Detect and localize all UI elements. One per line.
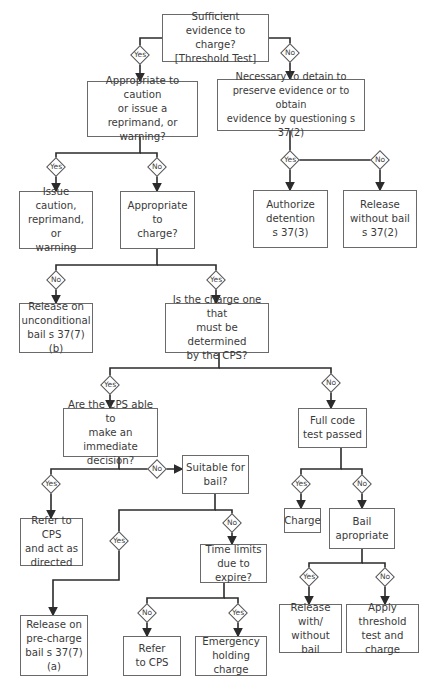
release-without-bail-box: Release without bail s 37(2) xyxy=(343,190,417,248)
yes-diamond-threshold: Yes xyxy=(129,44,151,66)
detain-question-box: Necessary to detain to preserve evidence… xyxy=(217,79,365,131)
authorize-detention-box: Authorize detention s 37(3) xyxy=(253,190,328,248)
time-limits-box: Time limits due to expire? xyxy=(200,544,267,583)
no-diamond-time-limits: No xyxy=(136,602,158,624)
apply-threshold-box: Apply threshold test and charge xyxy=(346,604,419,653)
caution-question-box: Appropriate to caution or issue a reprim… xyxy=(87,81,198,137)
charge-question-box: Appropriate to charge? xyxy=(120,191,195,249)
refer-to-cps-box: Refer to CPS xyxy=(123,636,181,676)
yes-diamond-suitable-bail: Yes xyxy=(108,530,130,552)
bail-appropriate-box: Bail apropriate xyxy=(329,508,395,549)
issue-caution-box: Issue caution, reprimand, or warning xyxy=(19,191,93,249)
release-with-without-bail-box: Release with/ without bail xyxy=(279,604,342,653)
yes-diamond-cps-determined: Yes xyxy=(99,374,121,396)
no-diamond-detain: No xyxy=(369,149,391,171)
no-diamond-caution: No xyxy=(146,156,168,178)
yes-diamond-charge: Yes xyxy=(205,269,227,291)
no-diamond-charge: No xyxy=(45,269,67,291)
yes-diamond-bail-appropriate: Yes xyxy=(298,566,320,588)
yes-diamond-time-limits: Yes xyxy=(227,602,249,624)
cps-determined-question-box: Is the charge one that must be determine… xyxy=(165,303,269,353)
full-code-test-box: Full code test passed xyxy=(298,408,367,448)
cps-immediate-decision-box: Are the CPS able to make an immediate de… xyxy=(63,408,158,457)
yes-diamond-caution: Yes xyxy=(45,156,67,178)
no-diamond-cps-determined: No xyxy=(320,372,342,394)
release-unconditional-bail-box: Release on unconditional bail s 37(7)(b) xyxy=(19,303,93,353)
yes-diamond-detain: Yes xyxy=(279,149,301,171)
refer-cps-act-box: Refer to CPS and act as directed xyxy=(20,518,83,566)
release-precharge-bail-box: Release on pre-charge bail s 37(7)(a) xyxy=(20,615,88,676)
emergency-holding-charge-box: Emergency holding charge xyxy=(195,636,267,676)
yes-diamond-full-code: Yes xyxy=(290,473,312,495)
no-diamond-full-code: No xyxy=(351,473,373,495)
no-diamond-cps-immediate: No xyxy=(146,458,168,480)
yes-diamond-cps-immediate: Yes xyxy=(40,473,62,495)
threshold-test-box: Sufficient evidence to charge? [Threshol… xyxy=(162,14,269,62)
no-diamond-threshold: No xyxy=(279,42,301,64)
charge-box: Charge xyxy=(284,508,321,533)
no-diamond-bail-appropriate: No xyxy=(374,566,396,588)
no-diamond-suitable-bail: No xyxy=(221,512,243,534)
suitable-for-bail-box: Suitable for bail? xyxy=(182,455,249,494)
